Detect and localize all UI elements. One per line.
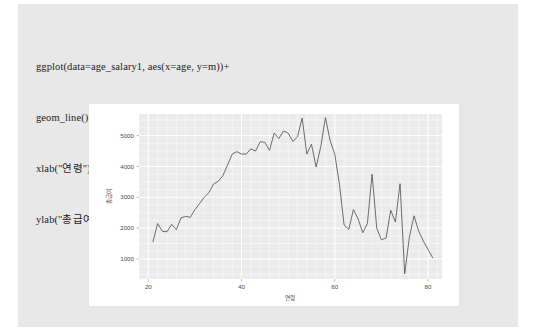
- plot-card: 20406080 10002000300040005000 연령 총급여: [89, 104, 459, 306]
- y-tick-label: 3000: [120, 193, 134, 200]
- x-tick-label: 80: [425, 283, 432, 290]
- line-chart: 20406080 10002000300040005000 연령 총급여: [89, 104, 459, 306]
- slide-page: ggplot(data=age_salary1, aes(x=age, y=m)…: [18, 4, 518, 327]
- x-axis-title: 연령: [285, 294, 295, 301]
- x-tick-label: 60: [331, 283, 338, 290]
- x-tick-label: 40: [238, 283, 245, 290]
- y-tick-label: 4000: [120, 163, 134, 170]
- y-tick-label: 2000: [120, 224, 134, 231]
- code-line: ggplot(data=age_salary1, aes(x=age, y=m)…: [36, 58, 476, 75]
- y-tick-label: 5000: [120, 132, 134, 139]
- plot-panel-background: [139, 114, 442, 279]
- y-axis-title: 총급여: [105, 189, 113, 204]
- y-tick-label: 1000: [120, 255, 134, 262]
- x-tick-label: 20: [145, 283, 152, 290]
